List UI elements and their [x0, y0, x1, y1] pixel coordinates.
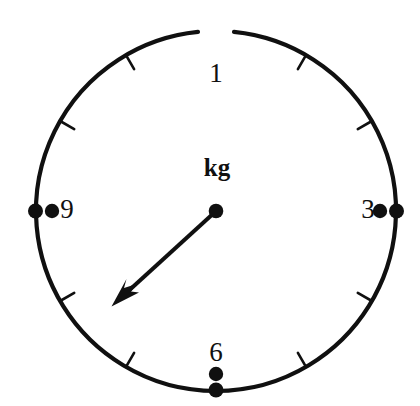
unit-label: kg — [204, 154, 231, 181]
tick-1-icon — [298, 55, 306, 69]
gauge-dot-markers — [28, 204, 404, 398]
marker-dot-9-inner — [45, 204, 59, 218]
needle-shaft — [124, 212, 215, 295]
tick-10-icon — [60, 121, 74, 129]
dial-number-3: 3 — [361, 194, 375, 224]
gauge-needle — [112, 204, 224, 307]
gauge-canvas: 1 3 6 9 kg — [0, 0, 420, 406]
gauge-widget: 1 3 6 9 kg — [0, 0, 420, 406]
needle-hub — [209, 204, 224, 219]
marker-dot-6-inner — [209, 367, 223, 381]
tick-11-icon — [126, 55, 134, 69]
marker-dot-3-inner — [373, 204, 387, 218]
dial-number-1: 1 — [209, 58, 223, 88]
tick-8-icon — [60, 293, 74, 301]
dial-number-6: 6 — [209, 337, 223, 367]
marker-dot-6-outer — [209, 383, 224, 398]
tick-2-icon — [358, 121, 372, 129]
tick-5-icon — [298, 353, 306, 367]
dial-number-9: 9 — [60, 194, 74, 224]
marker-dot-3-outer — [389, 204, 404, 219]
marker-dot-9-outer — [28, 204, 43, 219]
tick-7-icon — [126, 353, 134, 367]
tick-4-icon — [358, 293, 372, 301]
